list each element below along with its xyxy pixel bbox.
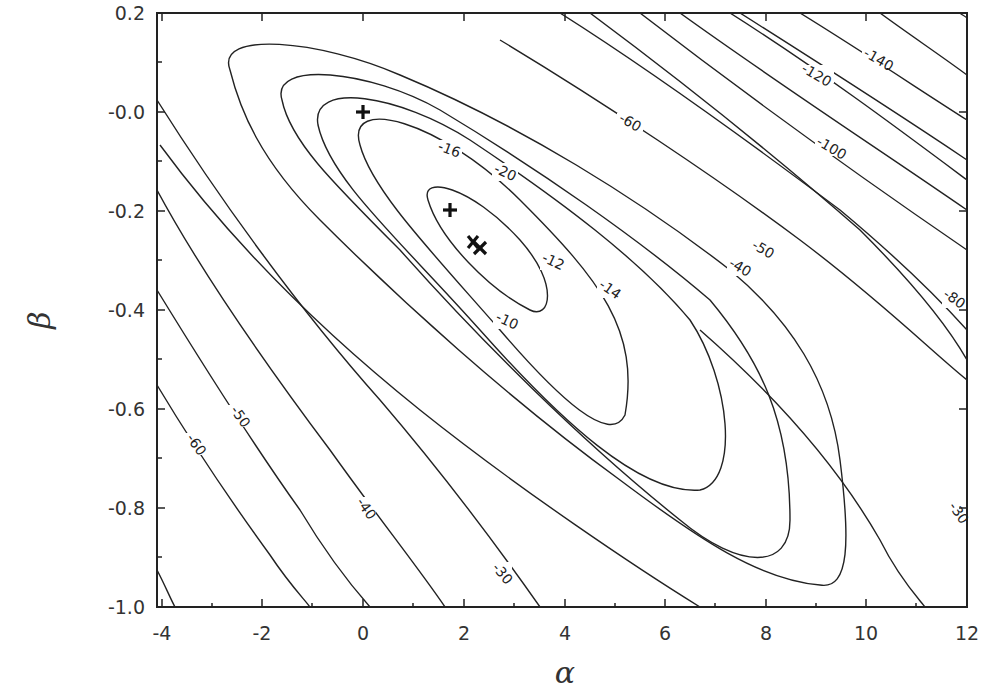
- y-tick-label: -0.0: [108, 101, 145, 123]
- svg-text:-30: -30: [946, 499, 972, 527]
- y-tick-label: -1.0: [108, 596, 145, 618]
- contour-lines: [157, 13, 967, 607]
- plus-marker: [356, 105, 370, 119]
- y-axis-title: β: [22, 311, 57, 329]
- y-tick-label: 0.2: [115, 2, 145, 24]
- plus-marker: [443, 203, 457, 217]
- y-tick-label: -0.2: [108, 200, 145, 222]
- x-ticks: [162, 13, 916, 607]
- x-tick-labels: -4 -2 0 2 4 6 8 10 12: [153, 622, 980, 644]
- x-tick-label: 8: [760, 622, 772, 644]
- x-tick-label: 0: [357, 622, 369, 644]
- x-tick-label: 4: [559, 622, 571, 644]
- y-tick-label: -0.6: [108, 398, 145, 420]
- x-tick-label: 2: [458, 622, 470, 644]
- x-tick-label: 12: [955, 622, 979, 644]
- x-axis-title: α: [555, 655, 575, 690]
- y-tick-label: -0.4: [108, 299, 145, 321]
- contour-labels: -10 -12 -14 -16 -20 -60 -120 -140 -100 -…: [183, 45, 972, 588]
- x-tick-label: 6: [659, 622, 671, 644]
- x-tick-label: 10: [854, 622, 878, 644]
- x-tick-label: -2: [253, 622, 272, 644]
- svg-text:-100: -100: [814, 133, 850, 163]
- svg-text:-120: -120: [799, 60, 835, 90]
- cross-marker: [474, 242, 486, 254]
- svg-text:-140: -140: [861, 45, 897, 75]
- y-tick-label: -0.8: [108, 497, 145, 519]
- y-tick-labels: 0.2 -0.0 -0.2 -0.4 -0.6 -0.8 -1.0: [108, 2, 145, 618]
- y-ticks: [157, 62, 967, 557]
- x-tick-label: -4: [153, 622, 172, 644]
- contour-plot: -10 -12 -14 -16 -20 -60 -120 -140 -100 -…: [0, 0, 1002, 691]
